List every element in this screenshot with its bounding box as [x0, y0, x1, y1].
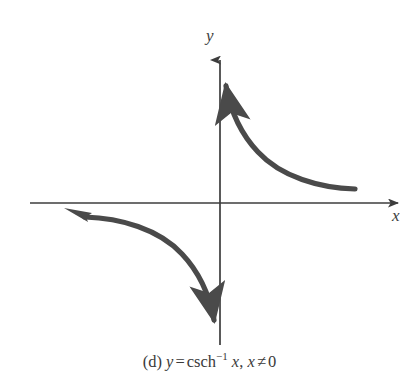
coordinate-plot [0, 0, 419, 383]
caption-domain-variable: x [247, 352, 255, 371]
caption-not-equal-sign: ≠ [255, 352, 268, 371]
y-axis-label: y [206, 27, 214, 44]
x-axis-label: x [392, 207, 400, 224]
figure-panel-d: y x (d)y=csch−1x,x≠0 [0, 0, 419, 383]
caption-function-name: csch [187, 352, 216, 371]
figure-caption: (d)y=csch−1x,x≠0 [0, 350, 419, 371]
curve-branch-negative [85, 217, 214, 320]
curve-branch-positive [226, 86, 355, 189]
caption-panel-label: (d) [143, 352, 162, 371]
curve-arrow-left-icon [64, 208, 92, 222]
caption-domain-value: 0 [268, 352, 276, 371]
caption-comma: , [239, 352, 243, 371]
caption-equals-sign: = [173, 352, 186, 371]
caption-inverse-exponent: −1 [216, 350, 228, 362]
